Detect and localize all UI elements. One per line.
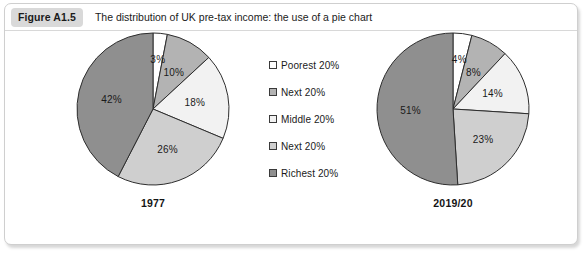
figure-title: The distribution of UK pre-tax income: t… (95, 11, 372, 23)
pie-slice (453, 109, 529, 185)
slice-label-poorest-201920: 4% (452, 54, 467, 65)
pie-canvas-1977: 3% 10% 18% 26% 42% (75, 31, 231, 187)
slice-label-middle-1977: 18% (185, 96, 206, 107)
legend-label-poorest: Poorest 20% (281, 60, 339, 71)
legend-label-middle: Middle 20% (281, 114, 334, 125)
legend-label-next-second: Next 20% (281, 87, 325, 98)
pie-caption-201920: 2019/20 (375, 197, 531, 209)
figure-panel: Figure A1.5 The distribution of UK pre-t… (4, 3, 578, 245)
chart-legend: Poorest 20% Next 20% Middle 20% Next 20%… (269, 57, 369, 192)
slice-label-next2-201920: 8% (466, 66, 481, 77)
slice-label-next4-1977: 26% (157, 144, 178, 155)
slice-label-next2-1977: 10% (163, 66, 184, 77)
square-swatch-icon (269, 88, 277, 96)
figure-body: 3% 10% 18% 26% 42% 1977 Poorest 20% Next… (5, 31, 577, 245)
pie-caption-1977: 1977 (75, 197, 231, 209)
legend-item-poorest: Poorest 20% (269, 57, 369, 73)
figure-header: Figure A1.5 The distribution of UK pre-t… (5, 4, 577, 31)
slice-label-poorest-1977: 3% (150, 54, 165, 65)
slice-label-richest-1977: 42% (101, 94, 122, 105)
square-swatch-icon (269, 169, 277, 177)
slice-label-richest-201920: 51% (400, 105, 421, 116)
legend-item-richest: Richest 20% (269, 165, 369, 181)
legend-label-next-fourth: Next 20% (281, 141, 325, 152)
pie-chart-1977: 3% 10% 18% 26% 42% 1977 (75, 31, 231, 187)
square-swatch-icon (269, 115, 277, 123)
square-swatch-icon (269, 61, 277, 69)
legend-item-middle: Middle 20% (269, 111, 369, 127)
slice-label-next4-201920: 23% (473, 134, 494, 145)
pie-chart-201920: 4% 8% 14% 23% 51% 2019/20 (375, 31, 531, 187)
pie-canvas-201920: 4% 8% 14% 23% 51% (375, 31, 531, 187)
slice-label-middle-201920: 14% (482, 88, 503, 99)
square-swatch-icon (269, 142, 277, 150)
legend-label-richest: Richest 20% (281, 168, 338, 179)
figure-number-badge: Figure A1.5 (11, 8, 83, 27)
legend-item-next-second: Next 20% (269, 84, 369, 100)
legend-item-next-fourth: Next 20% (269, 138, 369, 154)
